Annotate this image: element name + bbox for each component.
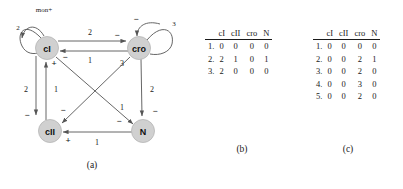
node-cII[interactable]: cII — [39, 120, 62, 143]
table-c-header-cro: cro — [351, 28, 368, 40]
edge-cI-cII-sign: − — [24, 110, 29, 120]
table-c-row-4-cI: 0 — [323, 78, 336, 91]
edge-cro-to-cI: 1 − — [60, 51, 128, 65]
table-c-row-5-index: 5. — [313, 90, 323, 103]
edge-cII-cI-sign: + — [51, 58, 56, 68]
table-c-row-2-N: 1 — [368, 53, 380, 66]
table-b-header-cII: cII — [228, 28, 243, 40]
edge-N-to-cII: 1 + — [63, 132, 132, 147]
edge-cro-N-weight: 2 — [150, 85, 154, 94]
node-N-label: N — [140, 127, 147, 137]
table-c-row-2-cI: 0 — [323, 53, 336, 66]
edge-cII-cI-weight: 1 — [54, 85, 58, 94]
table-c-row-5-cII: 0 — [336, 90, 351, 103]
panel-b-table-wrap: cI cII cro N 1. 0 0 0 0 2. 2 1 — [205, 28, 272, 78]
table-c-row-1-cro: 0 — [351, 40, 368, 53]
table-b-row-1-cII: 0 — [228, 40, 243, 53]
table-b-head: cI cII cro N — [205, 28, 272, 40]
table-b-header-N: N — [260, 28, 272, 40]
table-b-row-2-cII: 1 — [228, 53, 243, 66]
edge-N-cII-sign: + — [65, 135, 70, 145]
table-c-head: cI cII cro N — [313, 28, 380, 40]
edge-cro-cI-sign: − — [62, 52, 67, 62]
table-c-row-4-cII: 0 — [336, 78, 351, 91]
table-b-row-2-index: 2. — [205, 53, 215, 66]
table-b-header-cro: cro — [243, 28, 260, 40]
edge-cro-cII-weight: 3 — [120, 59, 124, 68]
node-cro-label: cro — [132, 44, 147, 54]
node-cII-label: cII — [45, 127, 55, 137]
table-c-row-1-cII: 0 — [336, 40, 351, 53]
table-b-body: 1. 0 0 0 0 2. 2 1 0 1 3. 2 0 0 — [205, 40, 272, 78]
table-b-header-row: cI cII cro N — [205, 28, 272, 40]
table-b-row-1-cI: 0 — [215, 40, 228, 53]
table-c-row-5-cro: 2 — [351, 90, 368, 103]
table-c: cI cII cro N 1. 0 0 0 0 2. 0 0 — [313, 28, 380, 103]
edge-cro-cI-weight: 1 — [88, 56, 92, 65]
edge-cI-N-weight: 1 — [120, 103, 124, 112]
table-row: 3. 2 0 0 0 — [205, 65, 272, 78]
edge-cI-to-cro: 2 − — [58, 28, 126, 41]
table-c-body: 1. 0 0 0 0 2. 0 0 2 1 3. 0 0 2 — [313, 40, 380, 103]
table-row: 2. 0 0 2 1 — [313, 53, 380, 66]
table-c-row-3-N: 0 — [368, 65, 380, 78]
table-row: 4. 0 0 3 0 — [313, 78, 380, 91]
table-c-row-5-N: 0 — [368, 90, 380, 103]
table-c-row-1-cI: 0 — [323, 40, 336, 53]
figure-root: 2 mon+ 3 − 2 − 1 − — [0, 0, 403, 189]
self-loop-cI-sign: mon+ — [36, 6, 52, 14]
table-c-header-corner — [313, 28, 323, 40]
edge-cro-cII-sign: − — [60, 105, 65, 115]
table-b: cI cII cro N 1. 0 0 0 0 2. 2 1 — [205, 28, 272, 78]
table-c-row-2-cro: 2 — [351, 53, 368, 66]
table-row: 2. 2 1 0 1 — [205, 53, 272, 66]
edge-N-cII-weight: 1 — [95, 138, 99, 147]
table-c-row-1-N: 0 — [368, 40, 380, 53]
self-loop-cro-weight: 3 — [172, 20, 176, 28]
table-c-header-cI: cI — [323, 28, 336, 40]
caption-b: (b) — [222, 144, 262, 154]
node-N[interactable]: N — [132, 120, 155, 143]
edge-cro-to-N: 2 − — [141, 59, 158, 116]
table-row: 1. 0 0 0 0 — [313, 40, 380, 53]
table-b-row-3-cII: 0 — [228, 65, 243, 78]
self-loop-cro-sign: − — [133, 14, 138, 24]
table-c-row-4-cro: 3 — [351, 78, 368, 91]
edge-cI-cII-weight: 2 — [24, 85, 28, 94]
table-b-header-corner — [205, 28, 215, 40]
edge-cII-to-cI: 1 + — [46, 58, 58, 120]
node-cI[interactable]: cI — [36, 37, 59, 60]
graph-diagram: 2 mon+ 3 − 2 − 1 − — [0, 0, 195, 165]
table-b-row-3-N: 0 — [260, 65, 272, 78]
table-c-row-3-cI: 0 — [323, 65, 336, 78]
table-c-row-2-index: 2. — [313, 53, 323, 66]
table-b-row-2-cro: 0 — [243, 53, 260, 66]
edge-cro-to-cII: 3 − — [60, 57, 130, 123]
edge-cI-cro-sign: − — [114, 30, 119, 40]
table-b-row-1-index: 1. — [205, 40, 215, 53]
table-b-row-3-cI: 2 — [215, 65, 228, 78]
node-cro[interactable]: cro — [128, 37, 151, 60]
table-c-row-1-index: 1. — [313, 40, 323, 53]
table-c-row-3-cro: 2 — [351, 65, 368, 78]
table-b-row-1-N: 0 — [260, 40, 272, 53]
node-cI-label: cI — [43, 44, 51, 54]
edge-cI-N-sign: − — [116, 116, 121, 126]
table-b-row-2-cI: 2 — [215, 53, 228, 66]
table-row: 5. 0 0 2 0 — [313, 90, 380, 103]
table-b-row-2-N: 1 — [260, 53, 272, 66]
table-c-row-3-cII: 0 — [336, 65, 351, 78]
edge-cI-cro-weight: 2 — [88, 28, 92, 37]
panel-c-table-wrap: cI cII cro N 1. 0 0 0 0 2. 0 0 — [313, 28, 380, 103]
table-c-row-5-cI: 0 — [323, 90, 336, 103]
caption-c: (c) — [328, 144, 368, 154]
table-b-row-3-cro: 0 — [243, 65, 260, 78]
table-c-header-N: N — [368, 28, 380, 40]
table-c-row-4-index: 4. — [313, 78, 323, 91]
self-loop-cI-weight: 2 — [16, 24, 20, 32]
table-c-header-cII: cII — [336, 28, 351, 40]
panel-a-graph: 2 mon+ 3 − 2 − 1 − — [0, 0, 195, 189]
table-c-row-4-N: 0 — [368, 78, 380, 91]
table-c-row-2-cII: 0 — [336, 53, 351, 66]
edge-cI-to-cII: 2 − — [24, 56, 36, 120]
